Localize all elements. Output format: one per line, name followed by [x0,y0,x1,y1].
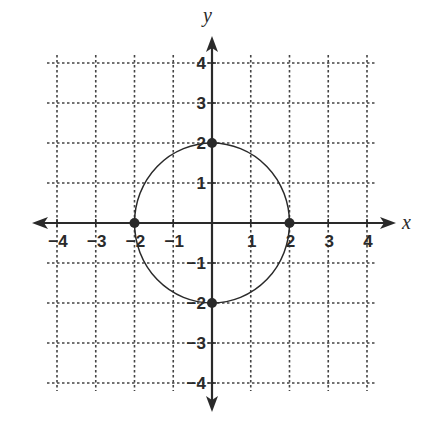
x-tick-label: −2 [126,232,145,251]
y-tick-label: −1 [187,254,206,273]
coordinate-plane: −4−3−2−112344321−1−2−3−4 x y [0,0,430,423]
x-tick-label: −3 [87,232,106,251]
y-tick-label: 2 [197,134,206,153]
y-tick-label: −4 [187,374,207,393]
x-tick-label: 4 [363,232,373,251]
y-tick-label: 1 [197,174,206,193]
x-tick-label: −1 [165,232,184,251]
data-point [130,218,140,228]
y-axis-label: y [201,4,212,27]
data-point [207,138,217,148]
data-point [207,298,217,308]
x-tick-label: 3 [325,232,334,251]
y-tick-label: −3 [187,334,206,353]
y-tick-label: 4 [197,54,207,73]
x-tick-label: 1 [247,232,256,251]
x-tick-label: −4 [48,232,68,251]
y-tick-label: 3 [197,94,206,113]
x-tick-label: 2 [286,232,295,251]
x-axis-label: x [401,211,411,233]
data-point [285,218,295,228]
y-tick-label: −2 [187,294,206,313]
axes [32,36,396,412]
